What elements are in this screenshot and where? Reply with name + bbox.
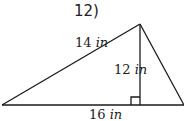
right-angle-marker	[131, 97, 140, 105]
left-side-label: 14 in	[75, 36, 108, 49]
base-label: 16 in	[89, 108, 122, 121]
triangle-diagram	[0, 0, 184, 121]
height-label: 12 in	[114, 63, 147, 76]
